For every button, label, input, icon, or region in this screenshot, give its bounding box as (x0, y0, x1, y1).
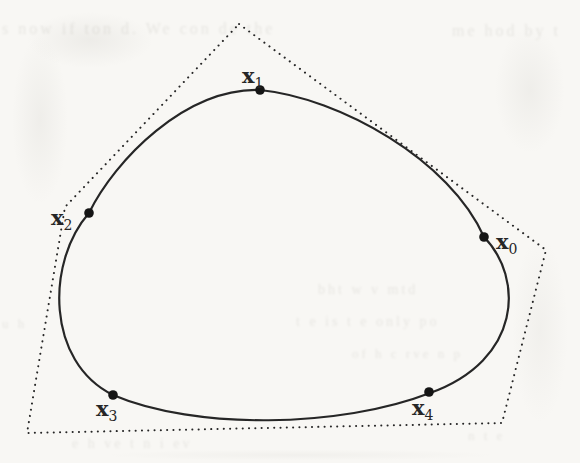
point-label-x2: x2 (51, 205, 72, 233)
point-label-x3: x3 (96, 396, 117, 424)
closed-curve-figure: x0x1x2x3x4 (0, 0, 580, 463)
point-dot-x0 (479, 232, 489, 242)
point-label-x0: x0 (496, 229, 517, 257)
point-label-x4: x4 (412, 395, 434, 423)
point-dot-x4 (424, 387, 434, 397)
point-dot-x3 (108, 390, 118, 400)
point-label-x1: x1 (242, 63, 263, 91)
scanned-page: s now if ton d. We con de theme hod by t… (0, 0, 580, 463)
curve-points-layer: x0x1x2x3x4 (51, 63, 517, 424)
point-dot-x2 (84, 208, 94, 218)
control-polygon-dotted (27, 24, 546, 433)
closed-curve-path (59, 90, 509, 420)
